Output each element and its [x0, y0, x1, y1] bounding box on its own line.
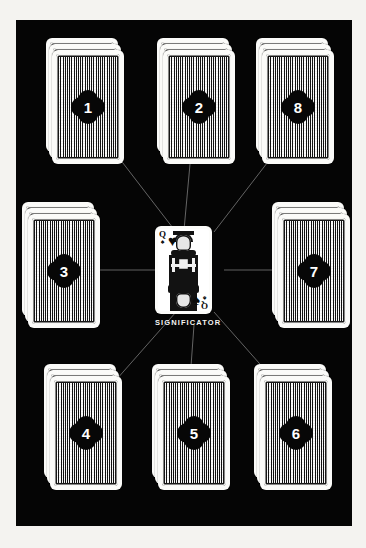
pile-number-badge: 6 — [279, 416, 313, 450]
card-suit-icon: ♠ — [159, 238, 166, 245]
pile-number-badge: 4 — [69, 416, 103, 450]
pile-number-badge: 7 — [297, 254, 331, 288]
card-pile-6[interactable]: 6 — [254, 364, 332, 490]
spread-layout-panel: 1 2 — [16, 20, 352, 526]
pile-number-label: 8 — [281, 90, 315, 124]
pile-number-badge: 8 — [281, 90, 315, 124]
significator-group[interactable]: ♥ ♠ Q ♠ Q ♠ SIGNIFICATOR — [155, 226, 212, 330]
pile-number-label: 2 — [182, 90, 216, 124]
pile-number-label: 3 — [47, 254, 81, 288]
card-pile-5[interactable]: 5 — [152, 364, 230, 490]
pile-number-label: 7 — [297, 254, 331, 288]
pile-top-card[interactable]: 8 — [262, 50, 334, 164]
card-rank-label: Q — [201, 301, 208, 310]
card-pile-8[interactable]: 8 — [256, 38, 334, 164]
card-index-bottom-right: Q ♠ — [201, 295, 208, 310]
card-pile-7[interactable]: 7 — [272, 202, 350, 328]
card-pile-2[interactable]: 1 — [46, 38, 124, 164]
pile-top-card[interactable]: 1 — [52, 50, 124, 164]
pile-top-card[interactable]: 5 — [158, 376, 230, 490]
card-pile-4[interactable]: 4 — [44, 364, 122, 490]
spade-suit-icon: ♠ — [192, 292, 200, 307]
significator-card[interactable]: ♥ ♠ Q ♠ Q ♠ — [155, 226, 212, 314]
connector-line-2 — [116, 154, 176, 232]
heart-suit-icon: ♥ — [168, 233, 177, 248]
photograph-frame: 1 2 — [0, 0, 366, 548]
connector-line-8 — [214, 154, 274, 232]
card-pile-1[interactable]: 2 — [157, 38, 235, 164]
pile-top-card[interactable]: 7 — [278, 214, 350, 328]
connector-line-1 — [184, 153, 191, 230]
pile-number-badge: 5 — [177, 416, 211, 450]
pile-number-label: 4 — [69, 416, 103, 450]
pile-top-card[interactable]: 4 — [50, 376, 122, 490]
pile-top-card[interactable]: 2 — [163, 50, 235, 164]
significator-label: SIGNIFICATOR — [155, 318, 212, 327]
pile-number-label: 6 — [279, 416, 313, 450]
card-pile-3[interactable]: 3 — [22, 202, 100, 328]
pile-number-label: 5 — [177, 416, 211, 450]
significator-card-face: ♥ ♠ Q ♠ Q ♠ — [158, 229, 209, 311]
card-index-top-left: Q ♠ — [159, 230, 166, 245]
pile-number-badge: 3 — [47, 254, 81, 288]
pile-number-badge: 2 — [182, 90, 216, 124]
pile-number-label: 1 — [71, 90, 105, 124]
pile-top-card[interactable]: 3 — [28, 214, 100, 328]
pile-number-badge: 1 — [71, 90, 105, 124]
pile-top-card[interactable]: 6 — [260, 376, 332, 490]
